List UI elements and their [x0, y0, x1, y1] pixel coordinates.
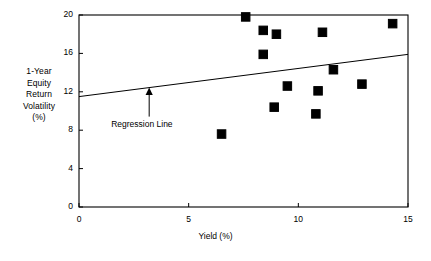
y-tick-label-2: 8: [55, 124, 73, 134]
axes-frame: [79, 15, 408, 207]
data-point-marker: [259, 50, 268, 59]
y-axis-label-line-4: Volatility: [8, 101, 70, 113]
data-point-marker: [388, 19, 397, 28]
data-point-marker: [217, 130, 226, 139]
x-axis-label: Yield (%): [0, 231, 431, 241]
data-point-marker: [259, 26, 268, 35]
data-point-marker: [318, 28, 327, 36]
x-tick-label-3: 15: [395, 214, 421, 224]
data-point-marker: [358, 80, 367, 89]
y-axis-label-line-5: (%): [8, 112, 70, 124]
y-tick-label-5: 20: [55, 9, 73, 19]
regression-line-label: Regression Line: [111, 119, 172, 129]
x-tick-label-1: 5: [176, 214, 202, 224]
data-point-marker: [329, 65, 338, 74]
data-point-marker: [272, 30, 281, 39]
y-tick-label-0: 0: [55, 201, 73, 211]
y-tick-label-1: 4: [55, 163, 73, 173]
annotation-arrow-head: [146, 87, 153, 95]
regression-line: [79, 54, 408, 96]
data-point-marker: [283, 82, 292, 91]
x-tick-label-2: 10: [285, 214, 311, 224]
scatter-chart-figure: 1-Year Equity Return Volatility (%) Yiel…: [0, 0, 431, 261]
data-point-marker: [314, 87, 323, 96]
data-point-marker: [312, 110, 321, 119]
y-tick-label-4: 16: [55, 47, 73, 57]
y-tick-label-3: 12: [55, 86, 73, 96]
data-point-marker: [270, 103, 279, 112]
y-axis-label-line-1: 1-Year: [8, 66, 70, 78]
x-tick-label-0: 0: [66, 214, 92, 224]
data-point-marker: [241, 13, 250, 22]
